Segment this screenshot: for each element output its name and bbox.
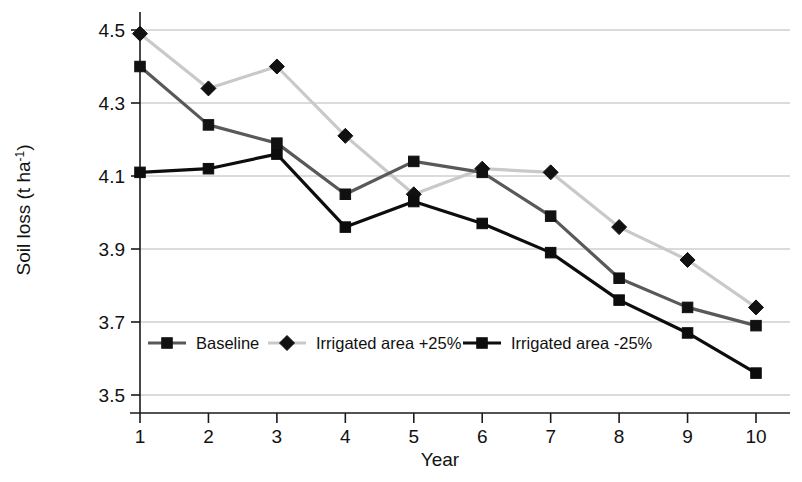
data-point-marker bbox=[545, 247, 556, 258]
data-point-marker bbox=[409, 196, 420, 207]
data-point-marker bbox=[340, 222, 351, 233]
data-point-marker bbox=[203, 163, 214, 174]
x-axis-title: Year bbox=[421, 449, 460, 470]
legend-marker bbox=[162, 338, 173, 349]
x-tick-label: 10 bbox=[745, 426, 766, 447]
data-point-marker bbox=[751, 320, 762, 331]
data-point-marker bbox=[340, 189, 351, 200]
data-point-marker bbox=[477, 167, 488, 178]
legend-label: Baseline bbox=[196, 334, 259, 352]
data-point-marker bbox=[682, 302, 693, 313]
x-tick-label: 6 bbox=[477, 426, 488, 447]
data-point-marker bbox=[272, 138, 283, 149]
y-axis-title: Soil loss (t ha-1) bbox=[13, 144, 34, 275]
data-point-marker bbox=[203, 120, 214, 130]
y-tick-label: 3.9 bbox=[99, 239, 125, 260]
y-tick-label: 4.5 bbox=[99, 20, 125, 41]
data-point-marker bbox=[409, 156, 420, 167]
data-point-marker bbox=[135, 167, 146, 178]
data-point-marker bbox=[272, 149, 283, 160]
legend-marker bbox=[477, 338, 488, 349]
data-point-marker bbox=[545, 211, 556, 222]
data-point-marker bbox=[614, 273, 625, 284]
x-tick-label: 1 bbox=[135, 426, 146, 447]
line-chart: 3.53.73.94.14.34.5 12345678910 BaselineI… bbox=[0, 0, 802, 482]
data-point-marker bbox=[135, 61, 146, 72]
legend-label: Irrigated area -25% bbox=[511, 334, 653, 352]
data-point-marker bbox=[477, 218, 488, 229]
data-point-marker bbox=[614, 295, 625, 306]
y-tick-label: 3.5 bbox=[99, 385, 125, 406]
y-tick-label: 4.3 bbox=[99, 93, 125, 114]
x-tick-label: 7 bbox=[545, 426, 556, 447]
x-tick-label: 9 bbox=[682, 426, 693, 447]
data-point-marker bbox=[751, 368, 762, 379]
chart-figure: 3.53.73.94.14.34.5 12345678910 BaselineI… bbox=[0, 0, 802, 482]
chart-legend: BaselineIrrigated area +25%Irrigated are… bbox=[148, 334, 653, 352]
y-tick-label: 4.1 bbox=[99, 166, 125, 187]
x-tick-label: 8 bbox=[614, 426, 625, 447]
x-tick-label: 5 bbox=[408, 426, 419, 447]
x-tick-label: 2 bbox=[203, 426, 214, 447]
y-tick-label: 3.7 bbox=[99, 312, 125, 333]
x-tick-label: 4 bbox=[340, 426, 351, 447]
data-point-marker bbox=[682, 328, 693, 339]
legend-label: Irrigated area +25% bbox=[316, 334, 462, 352]
x-tick-label: 3 bbox=[272, 426, 283, 447]
